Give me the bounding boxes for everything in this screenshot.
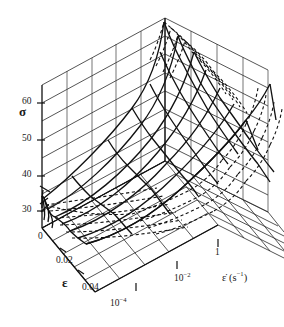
strain-rate-axis-label-tail: ) bbox=[244, 272, 248, 283]
sigma-tick-40: 40 bbox=[22, 170, 32, 180]
strain-rate-axis-label: ε̇ (s−1) bbox=[222, 271, 247, 283]
strain-rate-axis-label-main: ε̇ (s bbox=[222, 272, 237, 283]
strain-rate-tick-1e-2-exponent: −2 bbox=[184, 271, 191, 278]
strain-rate-tick-1e-2: 10−2 bbox=[174, 272, 191, 284]
origin-tick-0: 0 bbox=[38, 232, 43, 242]
sigma-tick-30: 30 bbox=[22, 205, 32, 215]
strain-axis-label: ε bbox=[62, 276, 68, 289]
sigma-tick-60: 60 bbox=[22, 97, 32, 107]
sigma-tick-50: 50 bbox=[22, 134, 32, 144]
strain-rate-tick-1-mantissa: 1 bbox=[215, 247, 220, 257]
strain-rate-tick-1e-4-mantissa: 10 bbox=[110, 298, 120, 308]
strain-rate-tick-1e-4-exponent: −4 bbox=[120, 296, 127, 303]
figure-3d-surface-plot: .g {fill:none;stroke:#2a2a2a;stroke-widt… bbox=[0, 0, 284, 327]
strain-tick-004: 0.04 bbox=[82, 283, 99, 293]
strain-tick-002: 0.02 bbox=[56, 256, 73, 266]
strain-rate-tick-1e-2-mantissa: 10 bbox=[174, 273, 184, 283]
strain-rate-axis-label-exponent: −1 bbox=[237, 270, 244, 277]
strain-rate-tick-1e-4: 10−4 bbox=[110, 297, 127, 309]
sigma-axis-label: σ bbox=[19, 105, 26, 118]
strain-rate-tick-1: 1 bbox=[215, 248, 220, 258]
